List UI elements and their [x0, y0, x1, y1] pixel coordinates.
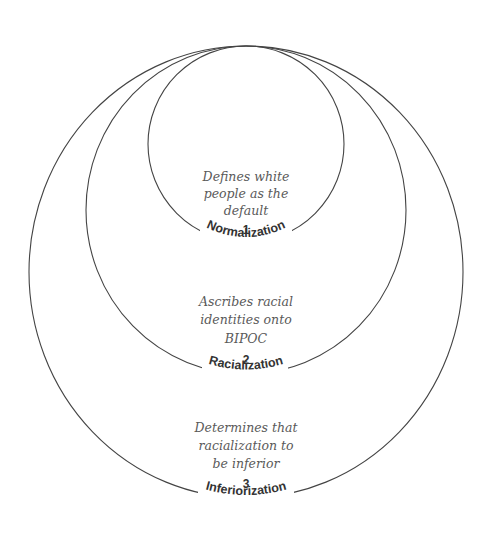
level-1-description-line-3: default: [224, 203, 270, 218]
level-1-description-line-1: Defines white: [202, 169, 290, 184]
level-3-description-line-2: racialization to: [198, 438, 293, 453]
level-1-label: Normalization: [205, 217, 287, 240]
level-3-description-line-1: Determines that: [193, 420, 298, 435]
level-2-description-line-3: BIPOC: [224, 331, 268, 346]
level-2-description-line-2: identities onto: [200, 312, 291, 327]
nested-circles-diagram: Defines white people as the default 1 No…: [0, 0, 490, 540]
level-3-description-line-3: be inferior: [213, 456, 281, 471]
level-2-description-line-1: Ascribes racial: [198, 294, 293, 309]
level-1-description-line-2: people as the: [204, 186, 289, 201]
